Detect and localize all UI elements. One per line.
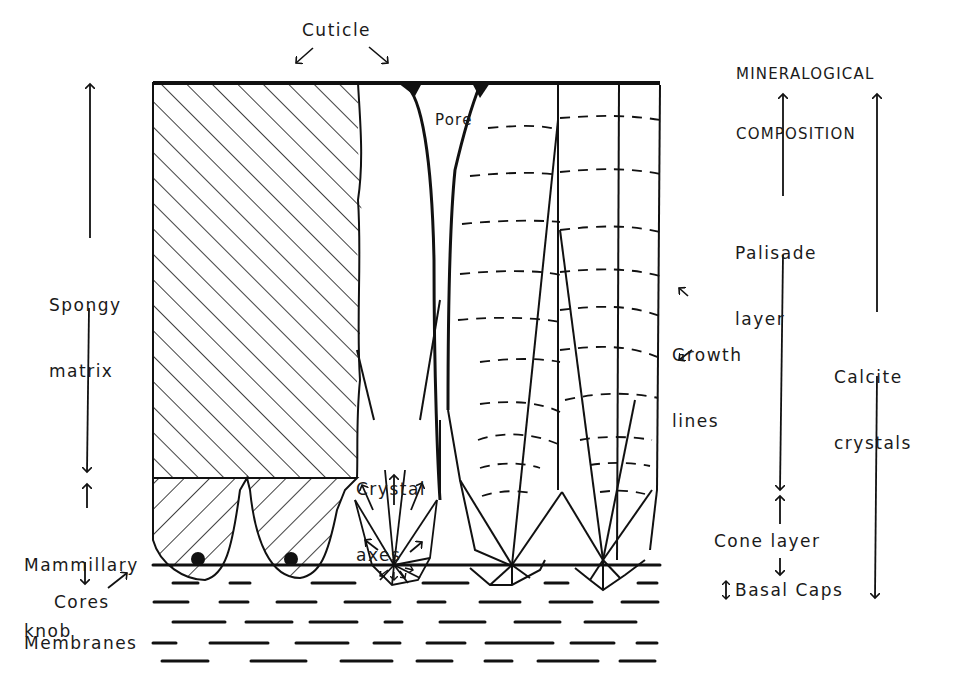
palisade-line2: layer (735, 308, 817, 330)
basal-caps-label: Basal Caps (735, 579, 843, 601)
calcite-line2: crystals (834, 432, 912, 454)
spongy-matrix-line1: Spongy (49, 294, 122, 316)
mineralogical-composition-heading: MINERALOGICAL COMPOSITION (736, 24, 875, 164)
calcite-line1: Calcite (834, 366, 912, 388)
core-dot (191, 552, 205, 566)
mineralogical-line1: MINERALOGICAL (736, 64, 875, 84)
growth-lines-label: Growth lines (672, 300, 743, 454)
crystal-axes-label: Crystal axes (356, 434, 426, 588)
spongy-matrix-region (153, 83, 362, 478)
spongy-matrix-line2: matrix (49, 360, 122, 382)
mineralogical-line2: COMPOSITION (736, 124, 875, 144)
palisade-layer-label: Palisade layer (735, 198, 817, 352)
growth-lines-line2: lines (672, 410, 743, 432)
cores-label: Cores (54, 591, 110, 613)
core-dot (284, 552, 298, 566)
crystal-axes-line2: axes (356, 544, 426, 566)
calcite-crystals-label: Calcite crystals (834, 322, 912, 476)
growth-lines-line1: Growth (672, 344, 743, 366)
cuticle-label: Cuticle (302, 19, 371, 41)
pore-label: Pore (435, 110, 473, 130)
palisade-line1: Palisade (735, 242, 817, 264)
spongy-matrix-label: Spongy matrix (49, 250, 122, 404)
cuticle-arrows (296, 47, 388, 63)
membranes-label: Membranes (24, 632, 137, 654)
mammillary-knob-line1: Mammillary (24, 554, 139, 576)
palisade-columns (448, 83, 660, 590)
cone-layer-label: Cone layer (714, 530, 821, 552)
crystal-axes-line1: Crystal (356, 478, 426, 500)
